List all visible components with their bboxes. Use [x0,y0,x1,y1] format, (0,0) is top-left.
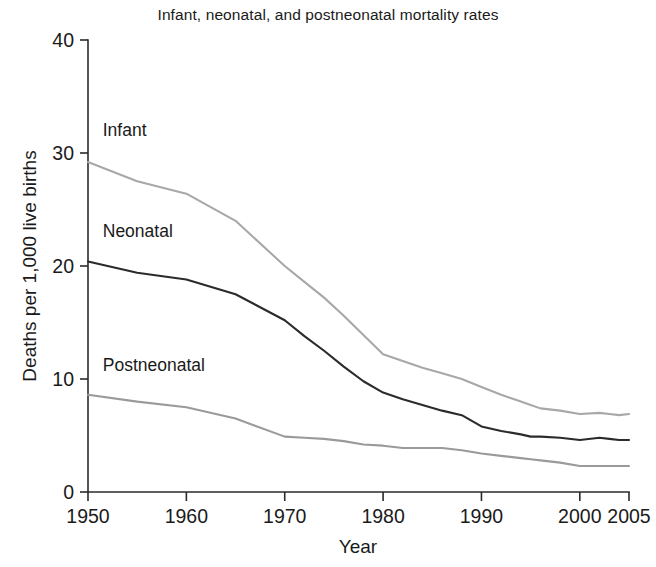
x-axis-title: Year [339,536,378,557]
series-inline-labels: InfantNeonatalPostneonatal [103,120,205,375]
series-line-neonatal [88,261,629,440]
line-chart-plot: 010203040 1950196019701980199020002005 I… [0,0,656,567]
y-tick-label: 40 [52,29,74,51]
series-label-infant: Infant [103,120,147,140]
x-tick-label: 1990 [460,505,504,527]
data-series [88,162,629,466]
series-line-postneonatal [88,395,629,466]
y-axis-title: Deaths per 1,000 live births [19,150,40,381]
x-tick-label: 1970 [263,505,307,527]
y-tick-label: 30 [52,142,74,164]
series-label-postneonatal: Postneonatal [103,355,205,375]
x-tick-label: 1980 [361,505,405,527]
x-tick-label: 1950 [66,505,110,527]
axes [88,40,629,492]
x-tick-label: 2005 [607,505,651,527]
chart-figure: Infant, neonatal, and postneonatal morta… [0,0,656,567]
series-label-neonatal: Neonatal [103,221,173,241]
x-axis-tick-labels: 1950196019701980199020002005 [66,505,651,527]
y-tick-label: 0 [63,481,74,503]
y-axis-tick-labels: 010203040 [52,29,74,503]
x-tick-label: 2000 [558,505,602,527]
tick-marks [80,40,629,501]
y-tick-label: 20 [52,255,74,277]
x-tick-label: 1960 [165,505,209,527]
y-tick-label: 10 [52,368,74,390]
